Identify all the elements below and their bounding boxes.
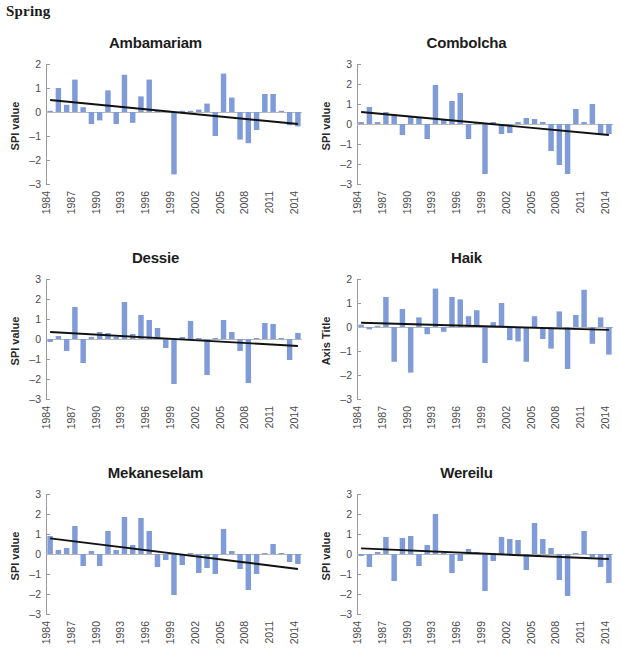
svg-text:1999: 1999 [164, 406, 176, 430]
svg-text:1996: 1996 [139, 621, 151, 645]
panel-grid: Ambamariam SPI value 210–1–2–31984198719… [0, 26, 622, 672]
svg-text:1996: 1996 [139, 406, 151, 430]
svg-text:1987: 1987 [65, 406, 77, 430]
svg-text:1996: 1996 [450, 406, 462, 430]
svg-text:2008: 2008 [549, 621, 561, 645]
svg-text:2014: 2014 [599, 621, 611, 645]
svg-text:1993: 1993 [114, 621, 126, 645]
svg-text:2008: 2008 [238, 191, 250, 215]
plot-area: SPI value 3210–1–2–319841987199019931996… [10, 275, 306, 445]
svg-text:1996: 1996 [450, 621, 462, 645]
svg-text:2008: 2008 [549, 406, 561, 430]
svg-text:–2: –2 [29, 373, 41, 385]
svg-text:1: 1 [35, 313, 41, 325]
svg-text:1987: 1987 [65, 621, 77, 645]
svg-text:1999: 1999 [164, 621, 176, 645]
svg-text:2008: 2008 [238, 621, 250, 645]
chart-title: Haik [311, 249, 622, 266]
chart-title: Wereilu [311, 464, 622, 481]
svg-text:1: 1 [346, 98, 352, 110]
svg-text:2002: 2002 [500, 621, 512, 645]
svg-text:–2: –2 [29, 588, 41, 600]
chart-title: Combolcha [311, 34, 622, 51]
plot-area: SPI value 3210–1–2–319841987199019931996… [321, 60, 617, 230]
figure-root: Spring Ambamariam SPI value 210–1–2–3198… [0, 0, 622, 672]
svg-text:1999: 1999 [475, 191, 487, 215]
svg-text:3: 3 [346, 490, 352, 500]
chart-canvas-1: 3210–1–2–3198419871990199319961999200220… [321, 60, 617, 234]
svg-text:0: 0 [35, 106, 41, 118]
svg-text:1990: 1990 [401, 191, 413, 215]
svg-text:–1: –1 [29, 130, 41, 142]
svg-text:1987: 1987 [65, 191, 77, 215]
svg-text:0: 0 [346, 548, 352, 560]
svg-text:–3: –3 [340, 178, 352, 190]
svg-text:2: 2 [35, 293, 41, 305]
svg-text:2002: 2002 [189, 406, 201, 430]
svg-text:1993: 1993 [425, 191, 437, 215]
svg-text:2011: 2011 [574, 621, 586, 644]
svg-text:1993: 1993 [425, 406, 437, 430]
svg-text:1990: 1990 [90, 191, 102, 215]
plot-area: SPI value 210–1–2–3198419871990199319961… [10, 60, 306, 230]
svg-text:1999: 1999 [475, 621, 487, 645]
svg-text:2: 2 [35, 60, 41, 70]
chart-canvas-0: 210–1–2–31984198719901993199619992002200… [10, 60, 306, 234]
svg-text:2: 2 [346, 78, 352, 90]
svg-text:1984: 1984 [351, 621, 363, 645]
svg-text:2011: 2011 [263, 406, 275, 429]
svg-text:2005: 2005 [525, 406, 537, 430]
svg-text:0: 0 [35, 333, 41, 345]
svg-text:0: 0 [35, 548, 41, 560]
svg-text:1990: 1990 [401, 406, 413, 430]
svg-text:1987: 1987 [376, 621, 388, 645]
chart-panel-dessie: Dessie SPI value 3210–1–2–31984198719901… [0, 241, 311, 456]
svg-text:3: 3 [346, 60, 352, 70]
svg-text:2002: 2002 [189, 621, 201, 645]
svg-text:2005: 2005 [525, 621, 537, 645]
svg-text:1984: 1984 [40, 406, 52, 430]
svg-text:1: 1 [346, 297, 352, 309]
chart-canvas-4: 3210–1–2–3198419871990199319961999200220… [10, 490, 306, 664]
svg-text:1987: 1987 [376, 191, 388, 215]
chart-panel-wereilu: Wereilu SPI value 3210–1–2–3198419871990… [311, 456, 622, 672]
svg-text:1993: 1993 [114, 191, 126, 215]
svg-text:2005: 2005 [525, 191, 537, 215]
svg-text:1987: 1987 [376, 406, 388, 430]
chart-title: Ambamariam [0, 34, 311, 51]
svg-text:2014: 2014 [288, 406, 300, 430]
svg-text:2002: 2002 [500, 406, 512, 430]
svg-text:1: 1 [346, 528, 352, 540]
svg-text:2: 2 [346, 275, 352, 285]
svg-text:–3: –3 [340, 393, 352, 405]
svg-text:1984: 1984 [40, 621, 52, 645]
svg-text:–3: –3 [29, 178, 41, 190]
chart-panel-haik: Haik Axis Title 210–1–2–3198419871990199… [311, 241, 622, 456]
svg-text:2014: 2014 [288, 191, 300, 215]
chart-canvas-5: 3210–1–2–3198419871990199319961999200220… [321, 490, 617, 664]
svg-text:–3: –3 [340, 608, 352, 620]
svg-text:1990: 1990 [90, 406, 102, 430]
svg-text:1990: 1990 [401, 621, 413, 645]
svg-text:–1: –1 [340, 345, 352, 357]
svg-text:1996: 1996 [450, 191, 462, 215]
plot-area: SPI value 3210–1–2–319841987199019931996… [321, 490, 617, 660]
plot-area: SPI value 3210–1–2–319841987199019931996… [10, 490, 306, 660]
svg-text:1: 1 [35, 528, 41, 540]
svg-text:2005: 2005 [214, 621, 226, 645]
svg-text:–1: –1 [29, 353, 41, 365]
svg-text:–2: –2 [340, 588, 352, 600]
svg-text:2014: 2014 [599, 191, 611, 215]
svg-text:1999: 1999 [164, 191, 176, 215]
svg-text:2: 2 [35, 508, 41, 520]
svg-text:2005: 2005 [214, 191, 226, 215]
svg-text:1984: 1984 [351, 406, 363, 430]
svg-text:2008: 2008 [238, 406, 250, 430]
svg-text:2002: 2002 [189, 191, 201, 215]
svg-text:1984: 1984 [351, 191, 363, 215]
svg-text:1990: 1990 [90, 621, 102, 645]
svg-text:1984: 1984 [40, 191, 52, 215]
svg-text:3: 3 [35, 275, 41, 285]
svg-text:–1: –1 [29, 568, 41, 580]
svg-text:2011: 2011 [574, 191, 586, 214]
